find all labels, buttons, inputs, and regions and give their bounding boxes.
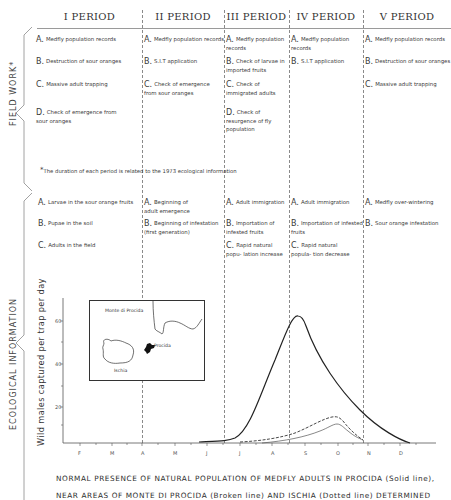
month-label: D bbox=[399, 450, 403, 456]
chart-plot bbox=[0, 0, 451, 500]
chart-caption-line-1: NORMAL PRESENCE OF NATURAL POPULATION OF… bbox=[56, 474, 435, 483]
month-label: J bbox=[239, 450, 240, 456]
month-label: F bbox=[78, 450, 81, 456]
chart-caption-line-2: NEAR AREAS OF MONTE DI PROCIDA (Broken l… bbox=[56, 491, 431, 500]
month-label: S bbox=[304, 450, 307, 456]
inset-map: Monte di Procida Procida Ischia bbox=[89, 300, 205, 381]
month-label: A bbox=[271, 450, 274, 456]
month-label: M bbox=[173, 450, 177, 456]
month-label: O bbox=[336, 450, 340, 456]
month-label: A bbox=[141, 450, 144, 456]
month-label: J bbox=[206, 450, 207, 456]
map-label-procida: Procida bbox=[154, 343, 171, 348]
month-label: N bbox=[367, 450, 371, 456]
map-label-ischia: Ischia bbox=[114, 368, 127, 373]
month-label: M bbox=[110, 450, 114, 456]
map-label-monte-di-procida: Monte di Procida bbox=[105, 308, 143, 313]
